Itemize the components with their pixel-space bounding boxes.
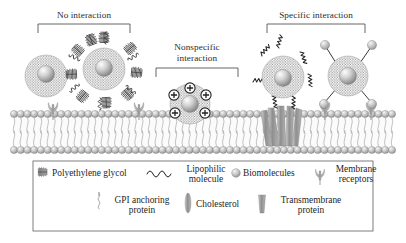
- legend-icon-membrane-receptors: [315, 169, 324, 185]
- bracket-no-interaction: [38, 24, 130, 33]
- legend-icon-polyethylene-glycol: [38, 168, 47, 177]
- legend-label-gpi-anchoring-protein: GPI anchoring protein: [106, 195, 178, 215]
- legend-icon-gpi-anchoring-protein: [98, 192, 100, 209]
- bracket-label-nonspecific-interaction: Nonspecific interaction: [154, 42, 240, 63]
- legend-label-membrane-receptors: Membrane receptors: [327, 164, 385, 184]
- bracket-label-no-interaction: No interaction: [34, 10, 134, 21]
- legend-icon-cholesterol: [185, 193, 191, 213]
- bracket-label-specific-interaction: Specific interaction: [259, 10, 373, 21]
- figure-nanoparticle-membrane-interactions: No interaction Nonspecific interaction S…: [0, 0, 406, 243]
- legend-label-biomolecules: Biomolecules: [243, 168, 295, 178]
- legend-label-lipophilic-molecule: Lipophilic molecule: [176, 164, 236, 184]
- legend-label-polyethylene-glycol: Polyethylene glycol: [52, 168, 127, 178]
- particle-peg-coated-nanoparticle: [66, 32, 143, 110]
- transmembrane-protein-cluster: [261, 106, 302, 146]
- lower-leaflet-heads: [10, 146, 395, 153]
- bracket-nonspecific-interaction: [156, 68, 238, 77]
- particle-lipophilic-nanoparticle: [253, 34, 314, 109]
- legend-icon-transmembrane-protein: [259, 195, 266, 213]
- particle-bare-nanoparticle: [25, 55, 67, 97]
- legend-label-cholesterol: Cholesterol: [196, 199, 239, 209]
- particle-cationic-nanoparticle: [169, 83, 211, 124]
- legend-icon-lipophilic-molecule: [147, 171, 171, 177]
- particle-targeted-nanoparticle: [319, 40, 376, 108]
- legend-label-transmembrane-protein: Transmembrane protein: [270, 195, 352, 215]
- bracket-specific-interaction: [267, 24, 365, 33]
